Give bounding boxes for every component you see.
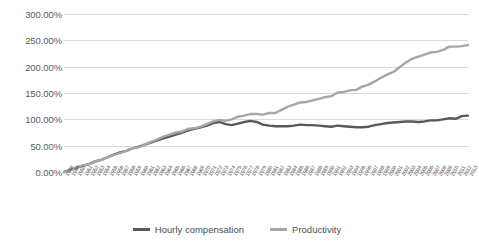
- legend-item-productivity: Productivity: [270, 224, 341, 235]
- legend-swatch-productivity: [270, 228, 287, 231]
- x-axis: 1948194919501951195219531954195519561957…: [64, 174, 468, 210]
- series-line-productivity: [64, 45, 468, 172]
- y-axis: 0.00%50.00%100.00%150.00%200.00%250.00%3…: [0, 0, 62, 252]
- chart-legend: Hourly compensation Productivity: [0, 224, 474, 235]
- legend-label-hourly-compensation: Hourly compensation: [155, 224, 244, 235]
- y-axis-tick-label: 0.00%: [0, 167, 62, 178]
- chart-data-area: [64, 14, 468, 172]
- y-axis-tick-label: 300.00%: [0, 9, 62, 20]
- y-axis-tick-label: 150.00%: [0, 88, 62, 99]
- legend-swatch-hourly-compensation: [133, 228, 150, 231]
- chart-series-svg: [64, 14, 468, 172]
- y-axis-tick-label: 250.00%: [0, 35, 62, 46]
- y-axis-tick-label: 100.00%: [0, 114, 62, 125]
- legend-item-hourly-compensation: Hourly compensation: [133, 224, 244, 235]
- legend-label-productivity: Productivity: [292, 224, 341, 235]
- y-axis-tick-label: 200.00%: [0, 61, 62, 72]
- y-axis-tick-label: 50.00%: [0, 140, 62, 151]
